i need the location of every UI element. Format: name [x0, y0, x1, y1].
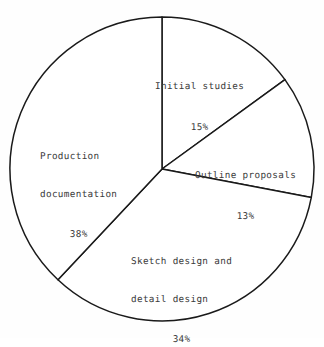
slice-label-text: Outline proposals	[195, 170, 296, 183]
slice-label-text-line1: Sketch design and	[131, 256, 232, 269]
slice-label-text-line2: documentation	[40, 189, 117, 202]
slice-label-text-line2: detail design	[131, 294, 232, 307]
slice-percent-value: 15%	[155, 122, 244, 135]
slice-label-production-documentation: Production documentation 38%	[40, 126, 117, 267]
slice-label-text-line1: Production	[40, 151, 117, 164]
slice-percent-value: 38%	[40, 229, 117, 242]
slice-percent-value: 13%	[195, 211, 296, 224]
slice-label-sketch-design: Sketch design and detail design 34%	[131, 231, 232, 347]
slice-label-initial-studies: Initial studies 15%	[155, 56, 244, 159]
page-corner-artifact	[299, 0, 308, 9]
slice-label-text: Initial studies	[155, 81, 244, 94]
slice-percent-value: 34%	[131, 334, 232, 347]
